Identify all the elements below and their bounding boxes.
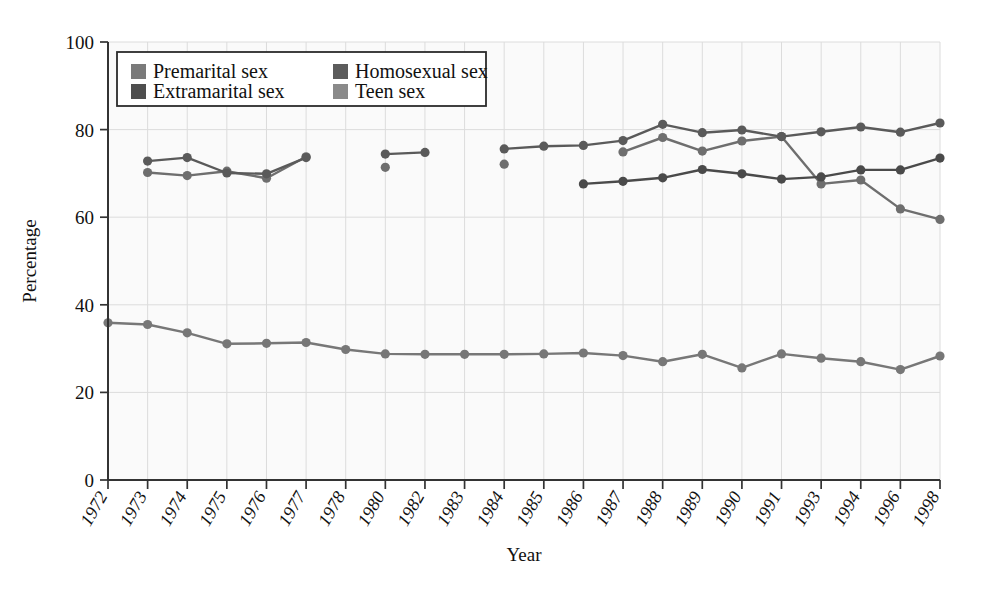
legend-label: Homosexual sex (355, 60, 488, 82)
x-tick-label: 1984 (472, 488, 507, 529)
x-tick-label: 1990 (710, 488, 745, 529)
data-point (222, 339, 231, 348)
data-point (262, 339, 271, 348)
data-point (856, 165, 865, 174)
data-point (579, 348, 588, 357)
data-point (698, 128, 707, 137)
x-tick-label: 1977 (274, 487, 310, 529)
data-point (500, 144, 509, 153)
data-point (896, 204, 905, 213)
data-point (737, 125, 746, 134)
data-point (737, 169, 746, 178)
series-path (385, 152, 425, 154)
x-tick-label: 1976 (235, 488, 270, 529)
y-tick-label: 40 (75, 295, 94, 316)
chart-figure: 0204060801001972197319741975197619771978… (0, 0, 988, 590)
data-point (618, 136, 627, 145)
data-point (420, 148, 429, 157)
line-chart: 0204060801001972197319741975197619771978… (0, 0, 988, 590)
x-tick-label: 1982 (393, 488, 428, 529)
data-point (539, 142, 548, 151)
x-tick-label: 1991 (750, 488, 785, 529)
x-tick-label: 1996 (869, 488, 904, 529)
x-tick-label: 1989 (670, 488, 705, 529)
y-tick-label: 100 (66, 32, 95, 53)
x-axis-title: Year (506, 544, 542, 565)
data-point (500, 350, 509, 359)
x-tick-label: 1993 (789, 488, 824, 529)
data-point (420, 350, 429, 359)
data-point (143, 157, 152, 166)
data-point (579, 141, 588, 150)
data-point (222, 168, 231, 177)
data-point (341, 345, 350, 354)
data-point (539, 349, 548, 358)
data-point (896, 365, 905, 374)
data-point (262, 169, 271, 178)
data-point (935, 154, 944, 163)
data-point (935, 351, 944, 360)
data-point (460, 350, 469, 359)
data-point (777, 175, 786, 184)
data-point (143, 168, 152, 177)
x-tick-label: 1975 (195, 488, 230, 529)
data-point (935, 215, 944, 224)
data-point (381, 163, 390, 172)
data-point (618, 351, 627, 360)
data-point (817, 354, 826, 363)
data-point (935, 118, 944, 127)
data-point (737, 136, 746, 145)
legend-swatch-icon (333, 64, 348, 79)
data-point (698, 350, 707, 359)
data-point (618, 147, 627, 156)
legend-label: Premarital sex (153, 60, 268, 82)
x-tick-label: 1985 (512, 488, 547, 529)
x-tick-label: 1994 (829, 488, 864, 529)
data-point (856, 357, 865, 366)
legend-label: Extramarital sex (153, 80, 285, 102)
y-axis-title: Percentage (19, 219, 40, 302)
data-point (817, 127, 826, 136)
data-point (737, 363, 746, 372)
y-tick-label: 80 (75, 120, 94, 141)
data-point (896, 165, 905, 174)
data-point (777, 132, 786, 141)
x-tick-label: 1974 (155, 488, 190, 529)
plot-background (108, 42, 940, 480)
data-point (302, 338, 311, 347)
data-point (500, 160, 509, 169)
data-point (658, 133, 667, 142)
data-point (183, 153, 192, 162)
data-point (698, 165, 707, 174)
data-point (856, 175, 865, 184)
x-tick-label: 1980 (353, 488, 388, 529)
data-point (777, 349, 786, 358)
data-point (698, 147, 707, 156)
legend-item-homosexual-sex[interactable]: Homosexual sex (333, 60, 488, 82)
data-point (143, 320, 152, 329)
y-tick-label: 0 (85, 470, 95, 491)
x-tick-label: 1987 (591, 487, 627, 529)
data-point (817, 172, 826, 181)
legend-label: Teen sex (355, 80, 425, 102)
data-point (183, 171, 192, 180)
y-tick-label: 60 (75, 207, 94, 228)
legend-item-extramarital-sex[interactable]: Extramarital sex (131, 80, 285, 102)
legend-swatch-icon (131, 64, 146, 79)
x-tick-label: 1998 (908, 488, 943, 529)
data-point (658, 120, 667, 129)
legend-swatch-icon (131, 84, 146, 99)
data-point (658, 173, 667, 182)
x-tick-label: 1972 (76, 488, 111, 529)
data-point (381, 349, 390, 358)
x-tick-label: 1986 (552, 488, 587, 529)
data-point (856, 122, 865, 131)
chart-legend: Premarital sexExtramarital sexHomosexual… (117, 52, 488, 106)
data-point (658, 357, 667, 366)
x-tick-label: 1978 (314, 488, 349, 529)
legend-swatch-icon (333, 84, 348, 99)
data-point (302, 153, 311, 162)
data-point (579, 179, 588, 188)
x-tick-label: 1973 (116, 488, 151, 529)
x-tick-label: 1988 (631, 488, 666, 529)
